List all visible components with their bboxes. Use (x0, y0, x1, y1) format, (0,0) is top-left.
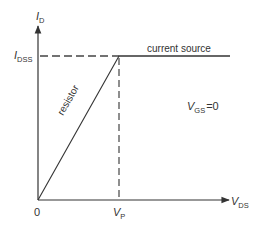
origin-label: 0 (34, 207, 40, 218)
pinch-off-label: VP (113, 207, 125, 221)
condition-label: VGS=0 (187, 101, 219, 115)
idss-subscript: DSS (17, 55, 32, 64)
vp-subscript: P (120, 212, 125, 221)
resistor-line (38, 56, 119, 200)
idss-label: IDSS (14, 50, 32, 64)
x-axis-label: VDS (231, 196, 249, 210)
x-axis-subscript: DS (238, 201, 248, 210)
condition-subscript: GS (194, 106, 205, 115)
condition-value: =0 (206, 100, 219, 112)
current-source-label: current source (147, 44, 211, 54)
y-axis-label: ID (36, 11, 44, 25)
jfet-characteristic-diagram: ID IDSS current source resistor VGS=0 0 … (0, 0, 264, 230)
y-axis-subscript: D (39, 16, 44, 25)
diagram-graphics (0, 0, 264, 230)
